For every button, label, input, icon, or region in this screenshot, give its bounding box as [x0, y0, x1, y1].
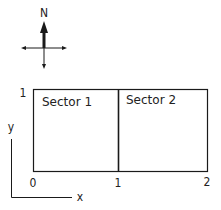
south-arrow-icon	[42, 48, 46, 69]
sector-grid: Sector 1 Sector 2	[34, 90, 208, 172]
sector-2-label: Sector 2	[126, 93, 176, 107]
sector-1-label: Sector 1	[42, 95, 92, 109]
x-tick-0: 0	[30, 176, 37, 190]
diagram-canvas: N Sector 1 Sector 2 1 0 1 2 y x	[0, 0, 221, 210]
axes-indicator: y x	[8, 120, 84, 204]
compass: N	[21, 6, 67, 69]
x-tick-1: 1	[115, 176, 122, 190]
y-tick-1: 1	[20, 86, 27, 100]
north-arrow-icon	[40, 21, 48, 48]
x-axis-label: x	[77, 190, 84, 204]
north-label: N	[40, 6, 48, 20]
y-axis-label: y	[8, 120, 15, 134]
x-tick-2: 2	[204, 175, 211, 189]
